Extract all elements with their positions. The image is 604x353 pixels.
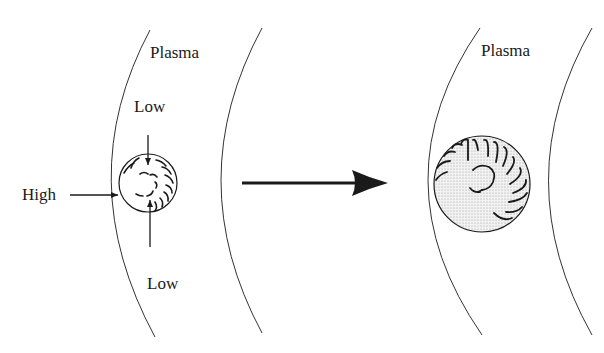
expanded-bubble bbox=[434, 136, 530, 232]
left-plasma-label: Plasma bbox=[150, 44, 199, 61]
top-low-label: Low bbox=[134, 98, 165, 115]
bottom-low-label: Low bbox=[147, 275, 178, 292]
transition-arrow bbox=[242, 170, 388, 196]
right-inner-boundary bbox=[549, 28, 593, 335]
high-label: High bbox=[22, 186, 56, 203]
left-inner-boundary bbox=[221, 28, 262, 333]
arrow-head-icon bbox=[352, 170, 388, 196]
right-plasma-label: Plasma bbox=[481, 42, 530, 59]
